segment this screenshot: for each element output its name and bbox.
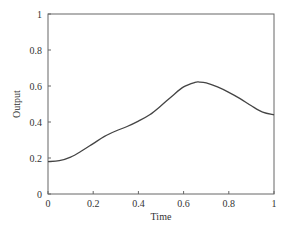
line-chart: 00.20.40.60.81 00.20.40.60.81 Time Outpu…	[0, 0, 291, 229]
plot-frame	[48, 14, 274, 194]
x-axis-label: Time	[151, 211, 172, 222]
x-tick-label: 0.4	[132, 198, 145, 209]
x-tick-label: 0.8	[223, 198, 236, 209]
y-axis-label: Output	[11, 90, 22, 118]
x-tick-label: 0	[46, 198, 51, 209]
y-tick-label: 0.4	[30, 117, 43, 128]
y-tick-label: 1	[37, 9, 42, 20]
x-tick-label: 0.6	[177, 198, 190, 209]
x-tick-label: 0.2	[87, 198, 100, 209]
y-tick-label: 0.8	[30, 45, 43, 56]
y-tick-label: 0.2	[30, 153, 43, 164]
output-line	[48, 82, 274, 162]
y-tick-label: 0	[37, 189, 42, 200]
axes-box	[48, 14, 274, 194]
y-tick-label: 0.6	[30, 81, 43, 92]
x-tick-label: 1	[272, 198, 277, 209]
